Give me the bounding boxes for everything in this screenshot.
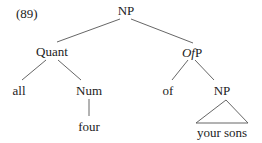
edge-quant-all (22, 60, 46, 80)
example-number: (89) (16, 6, 38, 21)
node-ofp-rest: P (195, 45, 202, 60)
edge-ofp-np (195, 60, 214, 80)
node-quant: Quant (36, 44, 68, 59)
node-num: Num (76, 83, 102, 98)
leaf-all: all (13, 83, 26, 98)
edge-np-quant (57, 19, 120, 42)
edge-quant-num (58, 60, 81, 80)
tree-svg: (89) NP Quant OfP all Num four of NP you… (0, 0, 262, 143)
triangle-np-your-sons (196, 100, 248, 123)
node-np-inner: NP (214, 83, 231, 98)
leaf-your-sons: your sons (197, 125, 247, 140)
edge-ofp-of (172, 60, 188, 80)
leaf-of: of (163, 83, 175, 98)
edge-np-ofp (131, 19, 193, 43)
syntax-tree-diagram: (89) NP Quant OfP all Num four of NP you… (0, 0, 262, 143)
node-np-root: NP (118, 3, 135, 18)
leaf-four: four (78, 119, 100, 134)
node-ofp: OfP (182, 45, 202, 60)
